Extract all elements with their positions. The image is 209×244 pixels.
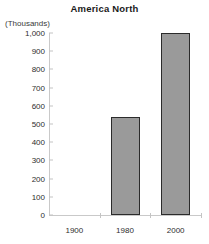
y-axis-tick-mark [49, 196, 53, 197]
bar [161, 33, 190, 215]
x-axis-tick-mark [150, 213, 151, 218]
x-axis-tick-mark [100, 213, 101, 218]
x-axis-tick-label: 2000 [167, 226, 185, 235]
y-axis-tick-mark [49, 105, 53, 106]
y-axis-tick-mark [49, 87, 53, 88]
y-axis-tick-label: 0 [41, 211, 45, 220]
y-axis-tick-label: 500 [32, 120, 45, 129]
chart-title: America North [0, 3, 209, 14]
y-axis-tick-mark [49, 124, 53, 125]
x-axis-tick-label: 1900 [65, 226, 83, 235]
plot-area: 01002003004005006007008009001,000 [49, 33, 201, 215]
y-axis-tick-label: 200 [32, 174, 45, 183]
bar-chart: America North (Thousands) 01002003004005… [0, 0, 209, 244]
y-axis-tick-label: 400 [32, 138, 45, 147]
y-axis-tick-mark [49, 33, 53, 34]
y-axis-tick-mark [49, 215, 53, 216]
x-axis-tick-mark [201, 213, 202, 218]
y-axis-tick-mark [49, 178, 53, 179]
y-axis-tick-label: 1,000 [25, 29, 45, 38]
y-axis-tick-mark [49, 69, 53, 70]
x-axis-line [49, 215, 201, 216]
y-axis-tick-label: 700 [32, 83, 45, 92]
y-axis-tick-label: 600 [32, 101, 45, 110]
y-axis-tick-label: 900 [32, 47, 45, 56]
y-axis-tick-mark [49, 142, 53, 143]
y-axis-units-label: (Thousands) [5, 19, 50, 28]
y-axis-tick-label: 100 [32, 192, 45, 201]
y-axis-tick-mark [49, 51, 53, 52]
y-axis-tick-label: 800 [32, 65, 45, 74]
x-axis-tick-label: 1980 [116, 226, 134, 235]
y-axis-tick-mark [49, 160, 53, 161]
y-axis-tick-label: 300 [32, 156, 45, 165]
bar [111, 117, 140, 215]
